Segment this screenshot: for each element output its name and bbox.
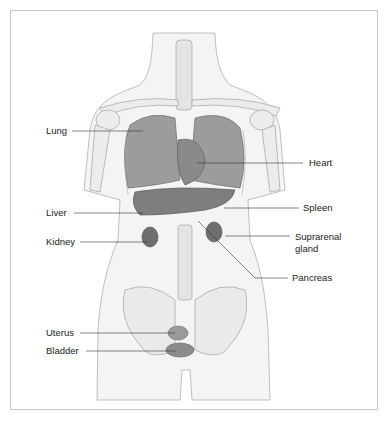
label-uterus: Uterus <box>46 327 74 339</box>
label-spleen: Spleen <box>303 202 333 214</box>
bladder <box>166 343 194 357</box>
label-suprarenal: Suprarenal <box>295 231 341 243</box>
label-heart: Heart <box>309 157 332 169</box>
label-suprarenal-gland: gland <box>295 243 318 255</box>
label-lung: Lung <box>46 125 67 137</box>
label-kidney: Kidney <box>46 236 75 248</box>
label-liver: Liver <box>46 207 67 219</box>
label-bladder: Bladder <box>46 345 79 357</box>
label-pancreas: Pancreas <box>292 272 332 284</box>
